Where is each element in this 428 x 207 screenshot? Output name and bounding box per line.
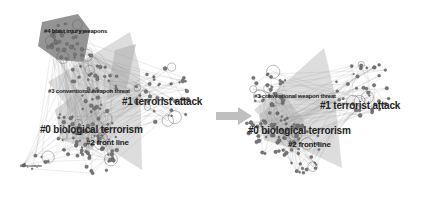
network-node: [284, 79, 286, 81]
network-node: [353, 73, 355, 75]
network-node: [58, 117, 60, 119]
network-node: [80, 149, 83, 152]
network-node: [310, 155, 313, 158]
network-node: [295, 169, 298, 172]
network-node: [384, 69, 387, 72]
network-node: [81, 147, 83, 149]
network-node: [97, 117, 100, 120]
network-node: [96, 96, 100, 100]
network-node: [305, 168, 308, 171]
network-node: [371, 111, 374, 114]
network-node: [268, 111, 271, 114]
network-node: [66, 153, 70, 157]
network-node: [103, 75, 106, 78]
cluster-label-0: #0 biological terrorism: [40, 124, 143, 135]
cluster-label-6: #6 ring contagion: [20, 164, 42, 168]
network-node: [299, 171, 301, 173]
network-node: [88, 156, 92, 160]
network-node: [115, 75, 118, 78]
network-node: [153, 120, 157, 124]
network-node: [112, 158, 116, 162]
network-node: [265, 136, 267, 138]
network-node: [262, 120, 264, 122]
network-node: [385, 86, 389, 90]
network-node: [368, 94, 370, 96]
network-node: [291, 162, 293, 164]
cluster-label-1-right: #1 terrorist attack: [320, 100, 400, 111]
network-node: [52, 35, 55, 38]
network-node: [153, 76, 156, 79]
network-node: [76, 154, 79, 157]
network-node: [62, 139, 64, 141]
network-node: [89, 104, 93, 108]
network-node: [94, 135, 96, 137]
network-node: [46, 45, 49, 48]
network-node: [299, 163, 302, 166]
network-node: [92, 107, 96, 111]
network-node: [65, 57, 68, 60]
network-node: [96, 78, 99, 81]
network-node: [277, 139, 281, 143]
network-node: [261, 99, 264, 102]
network-node: [79, 140, 81, 142]
network-node: [278, 136, 280, 138]
network-node: [115, 85, 117, 87]
network-node: [59, 114, 61, 116]
network-node: [365, 87, 368, 90]
cluster-label-3: #3 conventional weapon threat: [48, 88, 130, 94]
network-node: [277, 150, 280, 153]
network-node: [255, 82, 259, 86]
network-node: [72, 137, 74, 139]
cluster-label-1: #1 terrorist attack: [122, 96, 202, 107]
network-node: [78, 76, 81, 79]
network-node: [75, 140, 78, 143]
network-node: [170, 109, 173, 112]
network-node: [281, 116, 283, 118]
network-node: [31, 168, 33, 170]
network-node: [350, 65, 353, 68]
network-node: [153, 110, 155, 112]
network-node: [185, 89, 187, 91]
network-node: [57, 137, 60, 140]
network-node: [96, 135, 99, 138]
network-node: [81, 95, 83, 97]
network-node: [75, 35, 78, 38]
network-node: [270, 104, 273, 107]
network-node: [76, 42, 79, 45]
network-node: [104, 66, 107, 69]
network-node: [372, 84, 375, 87]
network-node: [52, 43, 54, 45]
network-node: [181, 79, 185, 83]
network-node: [314, 167, 317, 170]
network-node: [179, 81, 181, 83]
cluster-label-2: #2 front line: [86, 138, 129, 147]
network-node: [286, 117, 289, 120]
network-node: [63, 149, 66, 152]
network-node: [270, 75, 273, 78]
network-node: [64, 23, 66, 25]
network-panel-left: #4 blast injury weapons #3 conventional …: [0, 0, 214, 207]
network-node: [87, 79, 89, 81]
network-node: [34, 154, 37, 157]
network-node: [148, 82, 151, 85]
network-node: [54, 40, 58, 44]
network-node: [346, 82, 350, 86]
network-node: [65, 42, 68, 45]
network-node: [91, 98, 93, 100]
network-node: [57, 24, 60, 27]
network-node: [267, 73, 269, 75]
network-node: [56, 48, 60, 52]
network-node: [184, 113, 187, 116]
network-node: [99, 108, 101, 110]
cluster-label-4: #4 blast injury weapons: [44, 28, 107, 34]
network-node: [98, 65, 102, 69]
network-node: [85, 165, 88, 168]
network-node: [59, 56, 63, 60]
network-node: [355, 87, 358, 90]
network-node: [284, 119, 286, 121]
network-node: [89, 54, 93, 58]
network-node: [163, 66, 167, 70]
network-node: [82, 108, 84, 110]
network-node: [63, 116, 66, 119]
network-node: [69, 45, 73, 49]
